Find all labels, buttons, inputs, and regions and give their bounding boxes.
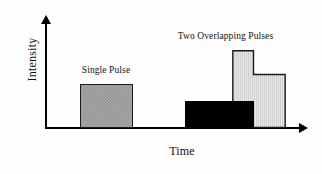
y-axis-label: Intensity bbox=[25, 20, 40, 100]
arrow-right-icon bbox=[299, 123, 308, 133]
arrow-up-icon bbox=[41, 15, 51, 24]
overlapping-pulses-caption: Two Overlapping Pulses bbox=[165, 31, 286, 41]
y-axis-line bbox=[45, 22, 47, 129]
overlapping-pulse-dark-bar bbox=[185, 101, 254, 128]
single-pulse-caption: Single Pulse bbox=[66, 65, 146, 75]
single-pulse-bar bbox=[80, 84, 133, 128]
x-axis-label: Time bbox=[146, 144, 218, 159]
pulse-diagram-figure: Intensity Time Single Pulse Two Overlapp… bbox=[0, 0, 322, 174]
